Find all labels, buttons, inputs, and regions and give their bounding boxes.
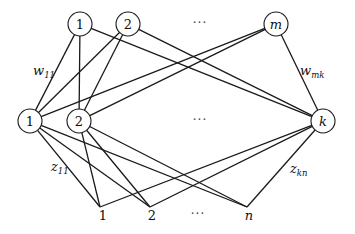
input-label-bn: n [245,208,253,223]
node-label: 1 [76,17,84,32]
edge-tm-h2 [90,29,265,115]
middle-ellipsis: ··· [193,113,207,127]
node-h1: 1 [18,109,42,133]
input-label-b1: 1 [99,208,107,223]
node-label: m [270,17,282,32]
node-label: 2 [124,17,132,32]
node-label: 1 [26,114,34,129]
node-label: k [319,114,327,129]
node-tm: m [264,12,288,36]
network-diagram: 12m12k 12n·········w11wmkz11zkn [0,0,355,234]
bottom-ellipsis: ··· [191,207,205,221]
node-t2: 2 [116,12,140,36]
edge-h1-bn [41,125,247,207]
node-h2: 2 [67,109,91,133]
top-ellipsis: ··· [193,16,207,30]
edge-t2-hk [139,29,313,115]
node-hk: k [311,109,335,133]
edge-h2-bn [90,126,247,207]
edge-hk-b1 [100,125,312,207]
edge-hk-b2 [150,126,312,207]
node-t1: 1 [68,12,92,36]
weight-label-z11: z11 [50,159,69,176]
input-label-b2: 2 [148,208,156,223]
weight-label-w11: w11 [33,63,55,80]
weight-label-zkn: zkn [289,161,307,178]
weight-label-wmk: wmk [300,63,324,80]
edge-t1-hk [91,28,312,116]
edge-tm-h1 [41,28,265,116]
node-label: 2 [75,114,83,129]
edge-t2-h2 [84,35,122,111]
